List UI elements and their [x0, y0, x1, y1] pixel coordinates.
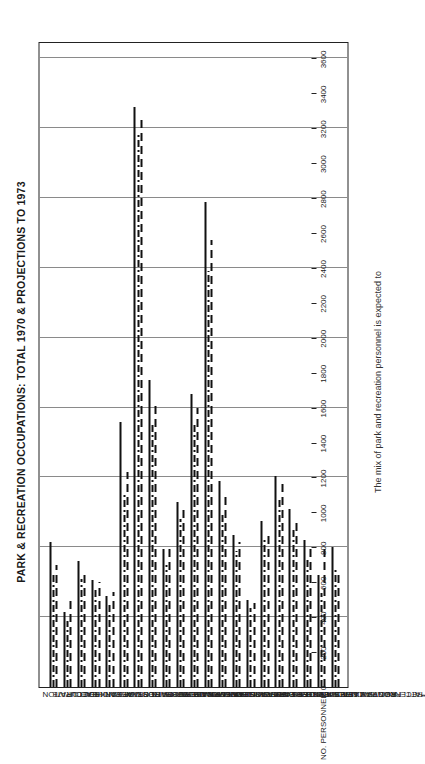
bar: [98, 582, 100, 687]
axis-tick-label: 200: [318, 646, 327, 659]
bar: [77, 561, 79, 687]
axis-tick-label: 400: [318, 611, 327, 624]
axis-tick-label: 1400: [318, 435, 327, 453]
axis-tick-label: 2400: [318, 260, 327, 278]
bar: [288, 509, 290, 687]
axis-tick-label: 1200: [318, 470, 327, 488]
bar: [260, 521, 262, 687]
bar: [295, 518, 297, 687]
axis-tick-label: 1800: [318, 365, 327, 383]
bar: [83, 572, 85, 687]
bar: [119, 422, 121, 687]
bar: [133, 107, 135, 687]
bar: [105, 596, 107, 687]
bar: [182, 507, 184, 687]
bar: [190, 394, 192, 687]
axis-tick-label: 1600: [318, 400, 327, 418]
axis-tick: [311, 443, 316, 444]
bar: [193, 422, 195, 687]
axis-tick-label: 2800: [318, 190, 327, 208]
bar: [281, 484, 283, 687]
gridline: [39, 127, 347, 128]
axis-tick-label: 3600: [318, 51, 327, 69]
bar: [334, 567, 336, 687]
gridline: [39, 337, 347, 338]
axis-tick: [311, 233, 316, 234]
bar: [218, 481, 220, 687]
axis-tick: [311, 687, 316, 688]
axis-tick-label: 3000: [318, 155, 327, 173]
bar: [232, 535, 234, 687]
bar: [224, 497, 226, 687]
bar: [126, 472, 128, 687]
plot-area: [38, 42, 348, 688]
axis-tick: [311, 303, 316, 304]
bar: [221, 512, 223, 687]
axis-tick: [311, 512, 316, 513]
bar: [80, 579, 82, 687]
bar: [303, 540, 305, 687]
axis-tick: [311, 373, 316, 374]
axis-tick: [311, 408, 316, 409]
bar: [66, 621, 68, 687]
bar: [52, 575, 54, 687]
bar: [55, 565, 57, 687]
axis-tick: [311, 198, 316, 199]
axis-tick-label: 1000: [318, 505, 327, 523]
bar: [196, 408, 198, 687]
bar: [306, 558, 308, 687]
axis-tick: [311, 338, 316, 339]
bar: [267, 532, 269, 687]
bar: [91, 581, 93, 688]
axis-tick-label: 2000: [318, 330, 327, 348]
bar: [207, 271, 209, 687]
gridline: [39, 197, 347, 198]
axis-tick: [311, 58, 316, 59]
bar: [148, 380, 150, 687]
gridline: [39, 407, 347, 408]
axis-tick: [311, 478, 316, 479]
bar: [108, 605, 110, 687]
axis-tick: [311, 582, 316, 583]
bar: [168, 544, 170, 687]
category-axis-title: OCCUPATION: [42, 690, 94, 699]
bar: [176, 502, 178, 687]
gridline: [39, 267, 347, 268]
value-axis-title: NO. PERSONNEL: [318, 694, 327, 760]
axis-tick: [311, 617, 316, 618]
bar: [151, 422, 153, 687]
bar: [165, 565, 167, 687]
axis-tick-label: 3200: [318, 120, 327, 138]
bar: [337, 575, 339, 687]
axis-tick: [311, 128, 316, 129]
bar: [69, 600, 71, 687]
axis-tick: [311, 163, 316, 164]
bar: [162, 549, 164, 687]
bar: [179, 519, 181, 687]
bar: [49, 542, 51, 687]
bar: [263, 540, 265, 687]
axis-tick-label: 2200: [318, 295, 327, 313]
axis-tick-label: 2600: [318, 225, 327, 243]
bar: [140, 118, 142, 687]
bar: [63, 612, 65, 687]
bar: [204, 202, 206, 687]
bar: [210, 240, 212, 687]
bar: [235, 551, 237, 687]
bar: [123, 495, 125, 687]
bar: [331, 547, 333, 687]
bar: [246, 600, 248, 687]
bar: [253, 603, 255, 687]
bar: [278, 498, 280, 687]
axis-tick: [311, 652, 316, 653]
bar: [274, 476, 276, 687]
bar: [238, 542, 240, 687]
bar: [317, 575, 319, 687]
axis-tick-label: 600: [318, 577, 327, 590]
axis-tick: [311, 93, 316, 94]
axis-tick: [311, 268, 316, 269]
bar: [112, 592, 114, 687]
bar: [154, 404, 156, 687]
bar: [137, 132, 139, 687]
